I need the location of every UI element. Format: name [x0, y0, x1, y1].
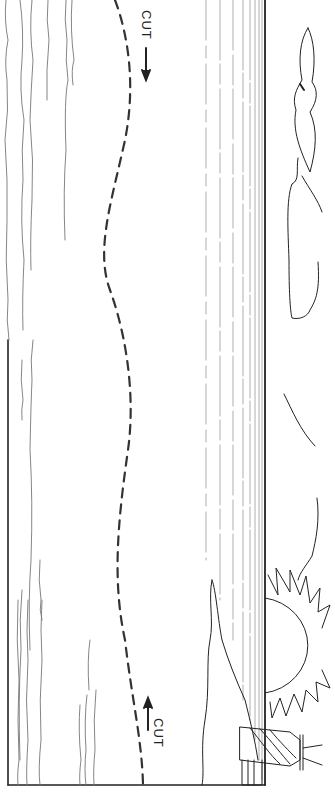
cut-label-top: CUT: [139, 10, 154, 40]
cut-label-bottom: CUT: [151, 718, 166, 748]
sun: [265, 568, 330, 718]
lighthouse: [240, 727, 322, 785]
seascape-illustration: [0, 0, 335, 795]
sea-waves: [5, 0, 96, 785]
dashed-cut-line: [104, 0, 143, 785]
seagull: [294, 28, 316, 172]
horizon-water-lines: [206, 0, 262, 780]
cloud-upper: [288, 158, 322, 319]
cloud-lower: [284, 394, 318, 580]
arrow-down-icon: [142, 48, 150, 80]
